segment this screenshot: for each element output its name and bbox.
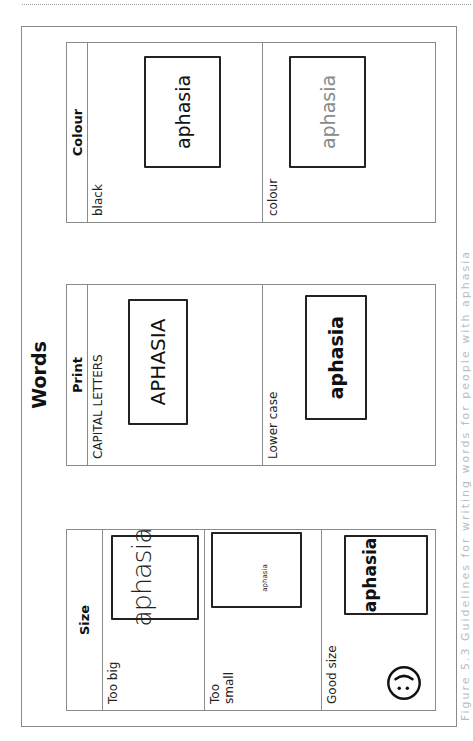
sample-word: aphasia [172, 75, 194, 149]
page-title: Words [28, 338, 50, 412]
print-table: Print CAPITAL LETTERS APHASIA Lower case… [66, 284, 436, 466]
size-row-too-big: Too big aphasia [103, 530, 204, 710]
size-table: Size Too big aphasia Too small aphasia G… [66, 529, 436, 711]
row-label: black [91, 184, 105, 216]
sample-word: aphasia [317, 75, 339, 149]
print-row-capital-letters: CAPITAL LETTERS APHASIA [88, 285, 262, 465]
sample-word: aphasia [126, 528, 157, 626]
row-label: CAPITAL LETTERS [91, 354, 105, 459]
colour-table: Colour black aphasia colour aphasia [66, 42, 436, 223]
row-label: Too big [106, 662, 120, 704]
sample-box-capital: APHASIA [128, 299, 188, 425]
print-table-header: Print [67, 285, 88, 465]
sample-box-good-size: aphasia [344, 535, 428, 615]
sample-box-black: aphasia [144, 56, 221, 168]
sample-box-lower-case: aphasia [305, 295, 367, 420]
sample-box-too-big: aphasia [111, 535, 199, 620]
sample-word: aphasia [261, 564, 269, 591]
colour-row-colour: colour aphasia [262, 43, 436, 222]
row-label: Lower case [266, 392, 280, 459]
size-row-good-size: Good size aphasia [321, 530, 436, 710]
sample-box-colour: aphasia [289, 56, 366, 168]
smiley-face-icon [384, 664, 424, 702]
size-table-header: Size [67, 530, 103, 710]
colour-table-header: Colour [67, 43, 88, 222]
row-label: colour [266, 179, 280, 216]
top-dotted-rule [22, 4, 471, 5]
size-row-too-small: Too small aphasia [204, 530, 321, 710]
sample-word: aphasia [360, 538, 380, 613]
print-row-lower-case: Lower case aphasia [262, 285, 436, 465]
colour-row-black: black aphasia [88, 43, 262, 222]
sample-box-too-small: aphasia [211, 532, 302, 608]
sample-word: APHASIA [146, 319, 170, 406]
figure-caption: Figure 5.3 Guidelines for writing words … [459, 31, 473, 721]
row-label: Too small [208, 672, 236, 704]
row-label: Good size [325, 645, 339, 704]
sample-word: aphasia [325, 316, 347, 399]
